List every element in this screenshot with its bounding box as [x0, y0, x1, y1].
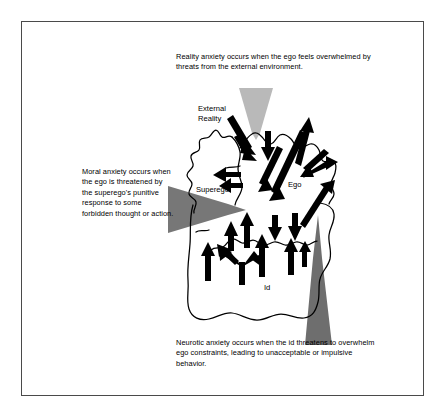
figure-canvas: Reality anxiety occurs when the ego feel… — [0, 0, 439, 413]
label-external-reality: External Reality — [198, 104, 226, 123]
label-id: Id — [264, 283, 270, 293]
arrow-up-4 — [284, 238, 298, 275]
arrow-up-2 — [224, 221, 238, 251]
moral-anxiety-caption: Moral anxiety occurs when the ego is thr… — [82, 167, 174, 219]
reality-anxiety-caption: Reality anxiety occurs when the ego feel… — [176, 52, 372, 73]
neurotic-anxiety-arrow — [305, 215, 332, 345]
label-ego: Ego — [288, 180, 302, 190]
arrow-up-6 — [201, 242, 215, 281]
arrow-down-3 — [288, 213, 302, 241]
arrow-down-2 — [268, 215, 282, 241]
arrow-left-1 — [213, 167, 241, 182]
label-superego: Superego — [196, 185, 229, 195]
neurotic-anxiety-caption: Neurotic anxiety occurs when the id thre… — [176, 338, 376, 369]
